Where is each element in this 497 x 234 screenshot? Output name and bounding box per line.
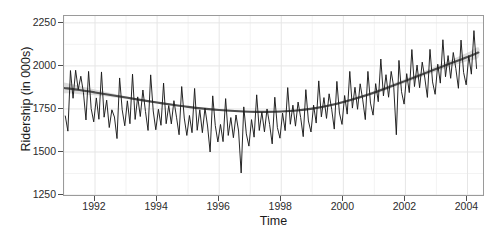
y-tick-label: 1750 <box>16 103 56 113</box>
plot-area <box>64 16 483 195</box>
y-tick-label: 1500 <box>16 146 56 156</box>
x-tick-mark <box>156 196 157 201</box>
x-tick-mark <box>218 196 219 201</box>
x-axis-title: Time <box>63 213 484 229</box>
x-tick-mark <box>94 196 95 201</box>
x-tick-mark <box>466 196 467 201</box>
y-tick-label: 2250 <box>16 17 56 27</box>
x-tick-label: 1992 <box>71 200 117 212</box>
x-tick-mark <box>342 196 343 201</box>
x-tick-label: 2004 <box>443 200 489 212</box>
y-tick-label: 2000 <box>16 60 56 70</box>
y-axis-title: Ridership (in 000s) <box>17 4 35 194</box>
x-tick-mark <box>280 196 281 201</box>
x-tick-label: 2002 <box>381 200 427 212</box>
plot-panel <box>63 15 484 196</box>
x-tick-label: 1996 <box>195 200 241 212</box>
x-tick-label: 1998 <box>257 200 303 212</box>
ridership-time-series-chart: Ridership (in 000s) Time 125015001750200… <box>0 0 497 234</box>
x-tick-mark <box>404 196 405 201</box>
y-tick-label: 1250 <box>16 189 56 199</box>
x-tick-label: 1994 <box>133 200 179 212</box>
x-tick-label: 2000 <box>319 200 365 212</box>
